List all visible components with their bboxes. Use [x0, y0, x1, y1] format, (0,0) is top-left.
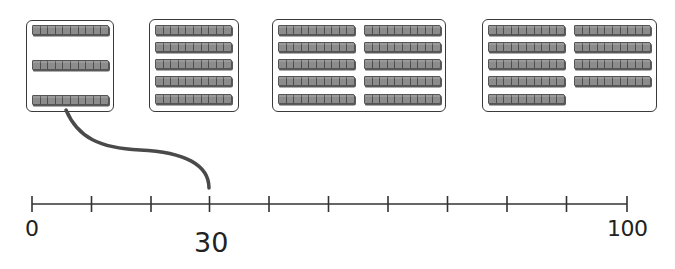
- tick-label-30: 30: [194, 229, 228, 256]
- connector-curve: [66, 110, 209, 188]
- number-line-graphic: [0, 0, 675, 269]
- tick-label-100: 100: [607, 218, 648, 240]
- tick-label-0: 0: [25, 218, 39, 240]
